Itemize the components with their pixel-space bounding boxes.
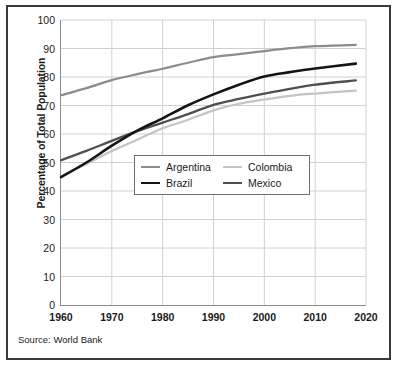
legend-item-colombia[interactable]: Colombia <box>223 161 305 173</box>
y-tick-label: 80 <box>43 71 55 83</box>
y-tick-label: 70 <box>43 100 55 112</box>
x-tick-label: 1990 <box>202 311 225 323</box>
legend-swatch-argentina <box>141 166 160 168</box>
legend-label-colombia: Colombia <box>248 161 292 173</box>
y-tick-label: 90 <box>43 43 55 55</box>
legend-item-mexico[interactable]: Mexico <box>223 177 305 189</box>
y-tick-label: 30 <box>43 214 55 226</box>
chart-figure: Percentage of Total Population 010203040… <box>6 5 391 360</box>
legend-row: BrazilMexico <box>141 177 305 189</box>
y-tick-label: 100 <box>37 14 55 26</box>
legend-swatch-mexico <box>223 182 242 184</box>
y-tick-label: 20 <box>43 242 55 254</box>
y-tick-label: 10 <box>43 271 55 283</box>
y-tick-label: 50 <box>43 157 55 169</box>
legend-item-brazil[interactable]: Brazil <box>141 177 223 189</box>
y-tick-label: 0 <box>49 299 55 311</box>
x-tick-label: 2000 <box>253 311 276 323</box>
y-tick-label: 40 <box>43 185 55 197</box>
source-note: Source: World Bank <box>18 334 102 345</box>
x-tick-label: 1960 <box>49 311 72 323</box>
legend-row: ArgentinaColombia <box>141 161 305 173</box>
y-tick-label: 60 <box>43 128 55 140</box>
series-line-mexico <box>61 80 356 160</box>
legend-swatch-brazil <box>141 182 160 184</box>
chart-legend: ArgentinaColombiaBrazilMexico <box>134 155 310 195</box>
legend-label-argentina: Argentina <box>166 161 211 173</box>
legend-item-argentina[interactable]: Argentina <box>141 161 223 173</box>
x-tick-label: 2010 <box>303 311 326 323</box>
legend-label-brazil: Brazil <box>166 177 192 189</box>
legend-label-mexico: Mexico <box>248 177 281 189</box>
x-tick-label: 1980 <box>151 311 174 323</box>
x-tick-label: 2020 <box>354 311 377 323</box>
x-tick-label: 1970 <box>100 311 123 323</box>
legend-swatch-colombia <box>223 166 242 168</box>
